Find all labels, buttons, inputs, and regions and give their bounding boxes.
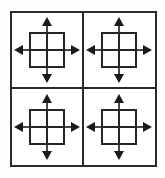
left-arrow-icon [14, 122, 29, 132]
up-arrow-icon [42, 94, 52, 109]
cell-top-left-label: top-left [11, 12, 12, 13]
cell-top-left: top-left [12, 13, 84, 89]
left-arrow-icon [14, 45, 29, 55]
inner-square-top-right [102, 33, 136, 67]
inner-square-bottom-left [30, 110, 64, 144]
expand-glyph-top-left [14, 17, 80, 83]
cell-top-right: top-right [84, 13, 156, 89]
right-arrow-icon [137, 45, 152, 55]
up-arrow-icon [114, 17, 124, 32]
outer-frame: top-left [10, 11, 157, 167]
right-arrow-icon [137, 122, 152, 132]
up-arrow-icon [42, 17, 52, 32]
down-arrow-icon [42, 145, 52, 160]
expand-glyph-bottom-left [14, 94, 80, 160]
right-arrow-icon [65, 122, 80, 132]
right-arrow-icon [65, 45, 80, 55]
figure-root: A bordered square divided into a 2 by 2 … [0, 0, 165, 178]
inner-square-bottom-right [102, 110, 136, 144]
down-arrow-icon [114, 68, 124, 83]
cell-bottom-right-label: bottom-right [83, 88, 84, 89]
down-arrow-icon [42, 68, 52, 83]
left-arrow-icon [86, 45, 101, 55]
left-arrow-icon [86, 122, 101, 132]
cell-bottom-left-label: bottom-left [11, 88, 12, 89]
inner-square-top-left [30, 33, 64, 67]
expand-glyph-bottom-right [86, 94, 152, 160]
cell-bottom-right: bottom-right [84, 89, 156, 165]
cell-bottom-left: bottom-left [12, 89, 84, 165]
cell-top-right-label: top-right [83, 12, 84, 13]
expand-glyph-top-right [86, 17, 152, 83]
up-arrow-icon [114, 94, 124, 109]
down-arrow-icon [114, 145, 124, 160]
